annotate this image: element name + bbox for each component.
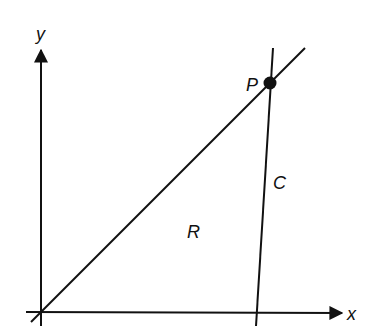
region-r-label: R [187, 222, 200, 242]
curve-c-label: C [273, 173, 287, 193]
y-axis-label: y [34, 24, 46, 44]
x-axis-label: x [346, 304, 357, 324]
point-p-label: P [246, 75, 258, 95]
x-axis [26, 312, 342, 313]
diagram-canvas: y x P C R [0, 0, 371, 333]
point-p-dot [264, 77, 277, 90]
